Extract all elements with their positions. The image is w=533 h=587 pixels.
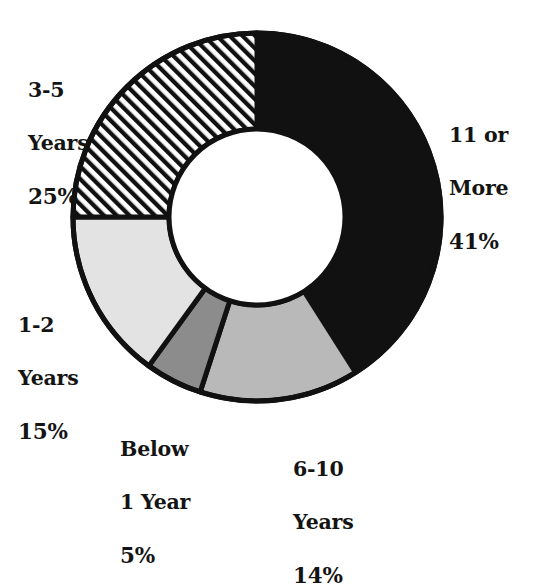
slice-label-3-5-years: 3-5 Years 25%: [28, 50, 89, 238]
slice-label-11-or-more-line2: More: [449, 175, 508, 202]
slice-label-11-or-more: 11 or More 41%: [449, 95, 508, 283]
slice-label-below-1-year-line2: 1 Year: [120, 489, 190, 516]
slice-label-6-10-years-value: 14%: [293, 562, 354, 587]
slice-label-11-or-more-line1: 11 or: [449, 122, 508, 149]
slice-label-below-1-year: Below 1 Year 5%: [120, 409, 190, 587]
slice-label-3-5-years-line2: Years: [28, 130, 89, 157]
slice-label-6-10-years-line1: 6-10: [293, 456, 354, 483]
slice-label-below-1-year-value: 5%: [120, 542, 190, 570]
slice-label-11-or-more-value: 41%: [449, 228, 508, 256]
slice-label-6-10-years-line2: Years: [293, 509, 354, 536]
slice-label-1-2-years-value: 15%: [18, 418, 79, 446]
slice-label-3-5-years-line1: 3-5: [28, 77, 89, 104]
slice-label-1-2-years-line1: 1-2: [18, 312, 79, 339]
slice-label-1-2-years: 1-2 Years 15%: [18, 285, 79, 473]
donut-hole-circle: [169, 129, 345, 305]
slice-label-1-2-years-line2: Years: [18, 365, 79, 392]
slice-label-below-1-year-line1: Below: [120, 436, 190, 463]
slice-label-3-5-years-value: 25%: [28, 183, 89, 211]
slice-label-6-10-years: 6-10 Years 14%: [293, 429, 354, 587]
